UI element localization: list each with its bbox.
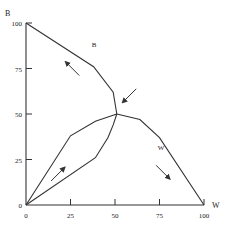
arrow-up-left-icon <box>65 62 79 76</box>
curve-label: B <box>92 41 97 49</box>
arrow-up-right-icon <box>51 167 65 181</box>
curve-label: W <box>158 144 165 152</box>
curve-upper-path <box>26 114 117 205</box>
y-tick-label: 50 <box>15 111 23 119</box>
arrow-down-right-icon <box>156 165 170 179</box>
x-axis-label: W <box>212 201 220 210</box>
y-tick-label: 75 <box>15 66 23 74</box>
x-tick-label: 50 <box>112 212 120 220</box>
x-tick-label: 75 <box>156 212 164 220</box>
y-tick-label: 0 <box>19 202 23 210</box>
y-axis-label: B <box>5 9 10 18</box>
x-tick-label: 25 <box>67 212 75 220</box>
axes <box>26 23 204 205</box>
y-tick-label: 25 <box>15 157 23 165</box>
y-tick-label: 100 <box>12 20 23 28</box>
curves <box>26 23 204 205</box>
arrow-down-left-icon <box>122 89 136 103</box>
annotations: BW <box>51 41 170 181</box>
curve-b <box>26 23 117 114</box>
curve-w <box>117 114 204 205</box>
x-tick-label: 0 <box>24 212 28 220</box>
curve-lower-path <box>26 114 117 205</box>
phase-diagram: 0255075100 0255075100 B W BW <box>0 0 229 230</box>
y-ticks: 0255075100 <box>12 20 33 210</box>
x-tick-label: 100 <box>199 212 210 220</box>
x-ticks: 0255075100 <box>24 199 210 220</box>
